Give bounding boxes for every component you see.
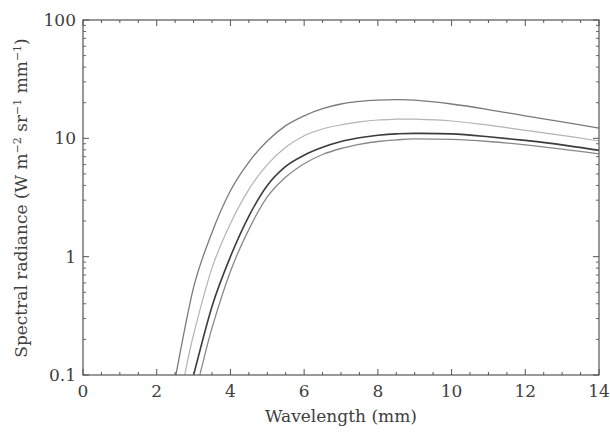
series-line-curve-3	[194, 133, 599, 375]
x-axis-title: Wavelength (mm)	[265, 406, 417, 426]
x-tick-label: 0	[78, 381, 89, 401]
x-tick-label: 10	[441, 381, 463, 401]
series-line-curve-2	[185, 119, 599, 375]
x-axis-ticks: 02468101214	[78, 20, 610, 401]
y-tick-label: 10	[54, 128, 76, 148]
x-tick-label: 8	[372, 381, 383, 401]
x-tick-label: 4	[225, 381, 236, 401]
axes	[83, 20, 599, 375]
x-tick-label: 6	[299, 381, 310, 401]
y-tick-label: 1	[65, 247, 76, 267]
y-axis-title: Spectral radiance (W m−2 sr−1 mm−1)	[11, 38, 32, 358]
plot-frame	[83, 20, 599, 375]
spectral-radiance-chart: 0.1110100 02468101214 Wavelength (mm) Sp…	[0, 0, 610, 435]
y-tick-label: 100	[44, 10, 76, 30]
y-tick-label: 0.1	[49, 365, 76, 385]
x-tick-label: 12	[514, 381, 536, 401]
x-tick-label: 14	[588, 381, 610, 401]
data-series	[176, 100, 599, 375]
x-tick-label: 2	[151, 381, 162, 401]
y-axis-ticks: 0.1110100	[44, 10, 599, 385]
